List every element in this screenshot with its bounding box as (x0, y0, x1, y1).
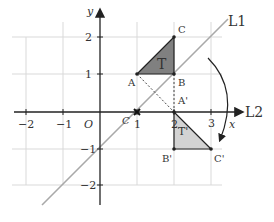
x-tick-2: 2 (171, 118, 178, 131)
triangle-T (137, 37, 174, 74)
x-axis-label: x (229, 118, 236, 131)
y-tick-neg1: −1 (80, 143, 96, 156)
x-tick-3: 3 (208, 117, 215, 130)
label-L2: L2 (245, 104, 263, 120)
y-tick-2: 2 (85, 31, 92, 44)
origin-label: O (84, 118, 93, 131)
label-center-C: C (122, 115, 130, 126)
label-T-prime: T' (178, 125, 188, 138)
y-tick-neg2: −2 (80, 179, 96, 192)
y-tick-1: 1 (85, 68, 92, 81)
x-tick-neg1: −1 (56, 118, 72, 131)
label-B-prime: B' (162, 153, 172, 164)
label-T: T (157, 56, 167, 72)
label-L1: L1 (228, 13, 246, 29)
label-A: A (127, 77, 136, 88)
label-B: B (178, 77, 185, 88)
label-C: C (178, 24, 186, 35)
label-A-prime: A' (177, 95, 188, 106)
grid (12, 22, 222, 185)
dotted-line-A-Aprime (137, 74, 174, 112)
x-tick-1: 1 (134, 118, 141, 131)
y-axis-label: y (86, 5, 94, 18)
coordinate-diagram: −2 −1 1 2 3 2 1 −1 −2 O x y L1 L2 A B C … (0, 0, 274, 222)
x-tick-neg2: −2 (18, 118, 34, 131)
label-C-prime: C' (214, 153, 224, 164)
